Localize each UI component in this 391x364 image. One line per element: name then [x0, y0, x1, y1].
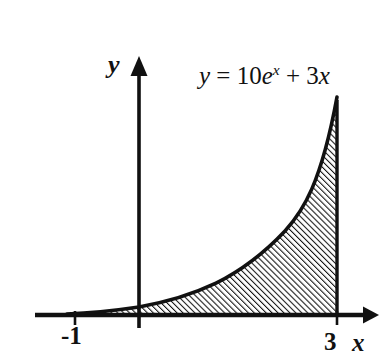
shaded-area-group [67, 97, 337, 314]
equation-linear-coefficient: 3 [306, 62, 319, 89]
equation-linear-variable-x: x [319, 62, 330, 89]
x-tick-label-3: 3 [324, 329, 337, 354]
x-tick-label-neg1: -1 [61, 323, 82, 348]
equation-base-e: e [262, 62, 273, 89]
graph-figure [0, 0, 391, 364]
y-axis-label: y [108, 52, 120, 78]
y-axis-arrowhead [131, 56, 148, 76]
equation-plus: + [280, 62, 307, 89]
x-axis-arrowhead [363, 307, 379, 324]
equation-equals: = [210, 62, 237, 89]
x-axis-label: x [352, 330, 365, 355]
shaded-region-under-curve [67, 97, 337, 314]
curve-equation-annotation: y = 10ex + 3x [199, 63, 330, 88]
equation-coefficient: 10 [237, 62, 262, 89]
equation-y: y [199, 62, 210, 89]
equation-exponent-x: x [273, 61, 280, 78]
